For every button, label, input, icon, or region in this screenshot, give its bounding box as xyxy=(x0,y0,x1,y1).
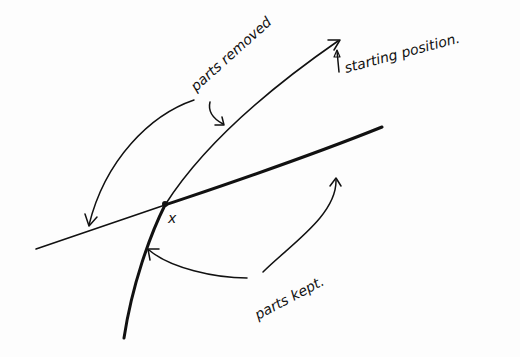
kept-arrow-to-curve xyxy=(149,250,247,278)
intersection-dot xyxy=(162,201,168,207)
removed-arrow-to-line xyxy=(89,100,194,225)
curve-upper-removed xyxy=(165,41,338,205)
line-right-kept xyxy=(165,127,382,205)
label-parts-kept: parts kept. xyxy=(251,273,327,323)
label-parts-removed: parts removed xyxy=(187,13,275,94)
curve-lower-kept xyxy=(124,205,165,338)
label-starting-position: starting position. xyxy=(343,30,462,76)
paper-background: parts removed starting position. parts k… xyxy=(0,0,520,357)
kept-arrow-to-line xyxy=(263,180,336,272)
label-intersection-x: x xyxy=(167,210,177,226)
diagram-canvas: parts removed starting position. parts k… xyxy=(0,0,520,357)
removed-arrow-to-curve xyxy=(210,102,223,124)
line-left-removed xyxy=(36,205,165,249)
